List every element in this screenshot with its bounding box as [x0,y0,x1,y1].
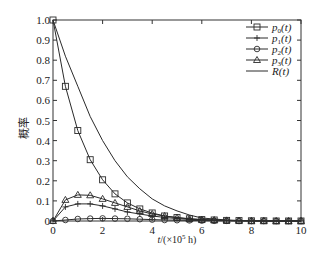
x-tick-label: 10 [296,224,308,236]
x-tick-label: 8 [249,224,255,236]
y-tick-label: 0.9 [36,34,50,46]
y-tick-label: 0.4 [36,135,50,147]
plot-frame [53,20,301,221]
y-axis-label: 概率 [17,117,31,139]
series-line [53,20,301,221]
y-tick-label: 0.1 [36,195,50,207]
y-tick-label: 0 [45,215,51,227]
y-tick-label: 0.5 [36,115,50,127]
plot-lines [50,17,305,224]
series-p0t [50,17,304,224]
x-tick-label: 2 [100,224,106,236]
y-tick-label: 0.7 [36,74,50,86]
axis-ticks: 024681000.10.20.30.40.50.60.70.80.91.0 [36,14,307,236]
x-axis-label-rest: /(×10 [160,234,182,246]
y-tick-label: 0.6 [36,94,50,106]
x-tick-label: 0 [50,224,56,236]
axes-frame [53,20,301,221]
y-tick-label: 1.0 [36,14,50,26]
legend: p0(t)p1(t)p2(t)p3(t)R(t) [246,21,292,78]
series-rt [53,20,301,221]
x-tick-label: 4 [149,224,155,236]
x-tick-label: 6 [199,224,205,236]
legend-item-rt: R(t) [246,65,289,78]
y-tick-label: 0.2 [36,175,50,187]
chart: 024681000.10.20.30.40.50.60.70.80.91.0 p… [0,0,320,258]
series-line [53,20,301,221]
triangle-marker [74,191,81,197]
y-tick-label: 0.3 [36,155,50,167]
legend-label: R(t) [271,65,289,78]
x-axis-label: t/(×105 h) [158,233,197,246]
x-axis-label-unit: h) [186,234,197,246]
y-tick-label: 0.8 [36,54,50,66]
